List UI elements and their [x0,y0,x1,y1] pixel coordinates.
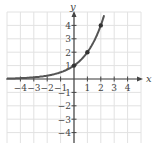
x-tick-label: −3 [27,83,41,93]
y-tick-label: 3 [65,34,71,44]
y-tick-label: −4 [58,128,72,138]
x-tick-label: −4 [14,83,28,93]
x-tick-label: 1 [85,83,91,93]
x-tick-label: 3 [111,83,117,93]
x-axis-label: x [146,73,152,84]
y-tick-label: 2 [65,48,71,58]
exponential-curve [7,15,104,78]
data-point [85,50,89,54]
data-point [99,23,103,27]
y-tick-label: −2 [58,101,71,111]
y-tick-label: 4 [65,21,71,31]
y-axis-label: y [69,1,76,12]
x-tick-label: −2 [41,83,54,93]
x-tick-label: 4 [125,83,131,93]
x-axis-arrow-icon [137,77,143,82]
data-point [72,63,76,67]
x-tick-label: 2 [98,83,104,93]
y-tick-label: −3 [58,115,72,125]
graph: x y −4−3−2−112344321−1−2−3−4 [0,0,152,143]
y-tick-label: −1 [58,88,71,98]
